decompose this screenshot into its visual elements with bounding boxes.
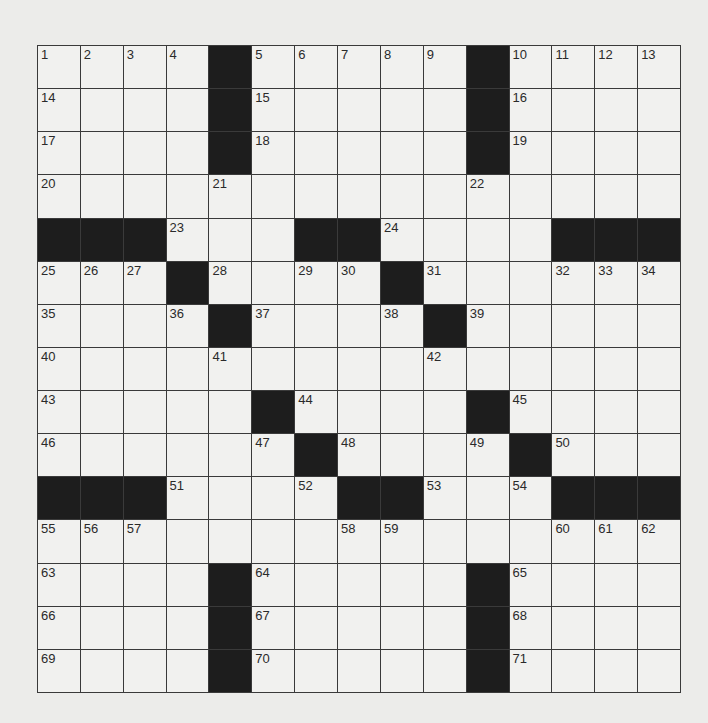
grid-cell[interactable]: 59	[381, 520, 423, 562]
grid-cell[interactable]: 9	[424, 46, 466, 88]
grid-cell[interactable]: 24	[381, 219, 423, 261]
grid-cell[interactable]	[338, 89, 380, 131]
grid-cell[interactable]: 17	[38, 132, 80, 174]
grid-cell[interactable]: 54	[510, 477, 552, 519]
grid-cell[interactable]	[81, 132, 123, 174]
grid-cell[interactable]	[510, 219, 552, 261]
grid-cell[interactable]: 49	[467, 434, 509, 476]
grid-cell[interactable]: 29	[295, 262, 337, 304]
grid-cell[interactable]: 8	[381, 46, 423, 88]
grid-cell[interactable]	[295, 305, 337, 347]
grid-cell[interactable]	[424, 564, 466, 606]
grid-cell[interactable]	[124, 607, 166, 649]
grid-cell[interactable]	[124, 434, 166, 476]
grid-cell[interactable]	[209, 520, 251, 562]
grid-cell[interactable]	[638, 564, 680, 606]
grid-cell[interactable]: 42	[424, 348, 466, 390]
grid-cell[interactable]: 61	[595, 520, 637, 562]
grid-cell[interactable]	[81, 564, 123, 606]
grid-cell[interactable]	[167, 564, 209, 606]
grid-cell[interactable]	[381, 348, 423, 390]
grid-cell[interactable]: 71	[510, 650, 552, 692]
grid-cell[interactable]	[638, 434, 680, 476]
grid-cell[interactable]	[381, 564, 423, 606]
grid-cell[interactable]: 16	[510, 89, 552, 131]
grid-cell[interactable]: 45	[510, 391, 552, 433]
grid-cell[interactable]	[552, 89, 594, 131]
grid-cell[interactable]: 67	[252, 607, 294, 649]
grid-cell[interactable]	[638, 89, 680, 131]
grid-cell[interactable]: 46	[38, 434, 80, 476]
grid-cell[interactable]	[124, 89, 166, 131]
grid-cell[interactable]	[595, 305, 637, 347]
grid-cell[interactable]	[510, 348, 552, 390]
grid-cell[interactable]: 65	[510, 564, 552, 606]
grid-cell[interactable]: 25	[38, 262, 80, 304]
grid-cell[interactable]	[552, 607, 594, 649]
grid-cell[interactable]	[124, 650, 166, 692]
grid-cell[interactable]	[467, 477, 509, 519]
grid-cell[interactable]: 69	[38, 650, 80, 692]
grid-cell[interactable]: 19	[510, 132, 552, 174]
grid-cell[interactable]	[595, 434, 637, 476]
grid-cell[interactable]	[467, 520, 509, 562]
grid-cell[interactable]	[338, 564, 380, 606]
grid-cell[interactable]: 56	[81, 520, 123, 562]
grid-cell[interactable]: 50	[552, 434, 594, 476]
grid-cell[interactable]	[552, 132, 594, 174]
grid-cell[interactable]: 30	[338, 262, 380, 304]
grid-cell[interactable]	[81, 391, 123, 433]
grid-cell[interactable]: 13	[638, 46, 680, 88]
grid-cell[interactable]: 64	[252, 564, 294, 606]
grid-cell[interactable]: 7	[338, 46, 380, 88]
grid-cell[interactable]: 34	[638, 262, 680, 304]
grid-cell[interactable]	[381, 650, 423, 692]
grid-cell[interactable]	[424, 89, 466, 131]
grid-cell[interactable]	[252, 348, 294, 390]
grid-cell[interactable]	[424, 132, 466, 174]
grid-cell[interactable]	[167, 132, 209, 174]
grid-cell[interactable]	[81, 434, 123, 476]
grid-cell[interactable]: 62	[638, 520, 680, 562]
grid-cell[interactable]: 15	[252, 89, 294, 131]
grid-cell[interactable]: 44	[295, 391, 337, 433]
grid-cell[interactable]: 70	[252, 650, 294, 692]
grid-cell[interactable]	[424, 391, 466, 433]
grid-cell[interactable]: 11	[552, 46, 594, 88]
grid-cell[interactable]	[424, 650, 466, 692]
grid-cell[interactable]: 10	[510, 46, 552, 88]
grid-cell[interactable]	[295, 564, 337, 606]
grid-cell[interactable]: 43	[38, 391, 80, 433]
grid-cell[interactable]	[638, 132, 680, 174]
grid-cell[interactable]	[167, 175, 209, 217]
grid-cell[interactable]: 66	[38, 607, 80, 649]
grid-cell[interactable]	[81, 305, 123, 347]
grid-cell[interactable]	[467, 219, 509, 261]
grid-cell[interactable]: 4	[167, 46, 209, 88]
grid-cell[interactable]	[595, 650, 637, 692]
grid-cell[interactable]	[381, 175, 423, 217]
grid-cell[interactable]	[424, 219, 466, 261]
grid-cell[interactable]	[552, 650, 594, 692]
grid-cell[interactable]	[638, 607, 680, 649]
grid-cell[interactable]	[424, 434, 466, 476]
grid-cell[interactable]	[338, 305, 380, 347]
grid-cell[interactable]	[124, 564, 166, 606]
grid-cell[interactable]: 58	[338, 520, 380, 562]
grid-cell[interactable]	[81, 89, 123, 131]
grid-cell[interactable]	[595, 391, 637, 433]
grid-cell[interactable]	[81, 175, 123, 217]
grid-cell[interactable]	[381, 391, 423, 433]
grid-cell[interactable]: 3	[124, 46, 166, 88]
grid-cell[interactable]: 60	[552, 520, 594, 562]
grid-cell[interactable]	[638, 348, 680, 390]
grid-cell[interactable]: 28	[209, 262, 251, 304]
grid-cell[interactable]	[167, 607, 209, 649]
grid-cell[interactable]	[209, 477, 251, 519]
grid-cell[interactable]: 2	[81, 46, 123, 88]
grid-cell[interactable]	[510, 305, 552, 347]
grid-cell[interactable]	[338, 607, 380, 649]
grid-cell[interactable]: 6	[295, 46, 337, 88]
grid-cell[interactable]	[338, 391, 380, 433]
grid-cell[interactable]	[295, 175, 337, 217]
